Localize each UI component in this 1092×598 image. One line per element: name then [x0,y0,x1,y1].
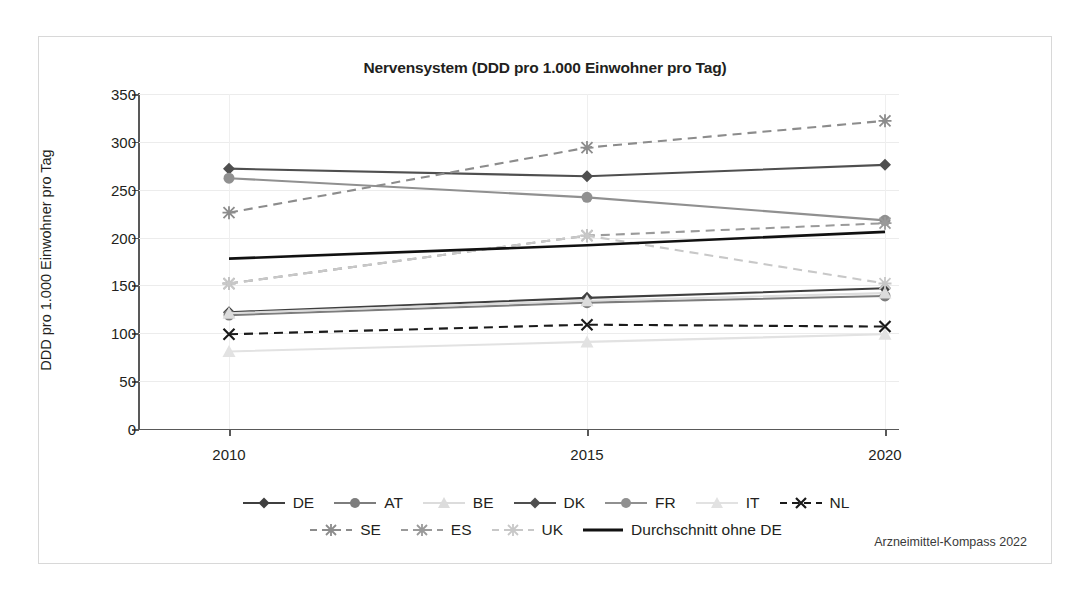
data-point-marker [581,170,593,182]
chart-figure: Nervensystem (DDD pro 1.000 Einwohner pr… [38,36,1052,564]
x-tick-label: 2015 [547,446,627,463]
legend-label: ES [451,521,472,539]
data-point-marker [581,229,594,242]
y-tick-label: 50 [76,373,136,390]
legend-item-uk[interactable]: UK [490,521,564,539]
series-layer [139,94,899,429]
legend-label: FR [655,494,676,512]
y-axis-title: DDD pro 1.000 Einwohner pro Tag [38,95,54,425]
source-note: Arzneimittel-Kompass 2022 [874,535,1027,549]
x-tick-label: 2020 [845,446,925,463]
legend-label: SE [360,521,381,539]
legend-swatch [490,521,536,539]
series-line [229,223,885,283]
data-point-marker [582,192,593,203]
series-dk [223,159,891,182]
data-point-marker [879,114,892,127]
legend-swatch [581,521,625,539]
data-point-marker [879,159,891,171]
data-point-marker [224,173,235,184]
x-tick-mark [885,429,887,436]
legend-swatch [778,494,824,512]
x-tick-label: 2010 [189,446,269,463]
series-es [223,217,892,290]
series-fr [224,173,891,226]
data-point-marker [350,498,360,508]
series-line [229,334,885,351]
series-line [229,232,885,259]
y-tick-label: 150 [76,277,136,294]
legend-label: DE [293,494,315,512]
legend-label: NL [830,494,850,512]
series-line [229,165,885,176]
legend-label: BE [473,494,494,512]
series-uk [223,229,892,290]
legend-item-fr[interactable]: FR [603,494,676,512]
legend-item-nl[interactable]: NL [778,494,850,512]
legend-swatch [241,494,287,512]
y-tick-label: 250 [76,181,136,198]
legend-item-be[interactable]: BE [421,494,494,512]
data-point-marker [223,206,236,219]
series-se [223,114,892,219]
legend-item-de[interactable]: DE [241,494,315,512]
legend-swatch [332,494,378,512]
series-line [229,121,885,213]
y-tick-label: 0 [76,421,136,438]
y-tick-label: 100 [76,325,136,342]
legend-item-es[interactable]: ES [399,521,472,539]
data-point-marker [529,497,540,508]
data-point-marker [507,524,519,536]
legend-row: DEATBEDKFRITNL [39,489,1051,516]
legend-item-se[interactable]: SE [308,521,381,539]
legend-swatch [694,494,740,512]
legend-label: Durchschnitt ohne DE [631,521,782,539]
x-tick-mark [229,429,231,436]
x-tick-mark [587,429,589,436]
data-point-marker [879,277,892,290]
y-tick-label: 300 [76,133,136,150]
legend-swatch [512,494,558,512]
series-line [229,178,885,220]
series-durchschnitt-ohne-de [229,232,885,259]
legend-label: AT [384,494,403,512]
legend-label: UK [542,521,564,539]
data-point-marker [581,141,594,154]
y-tick-label: 200 [76,229,136,246]
legend-label: IT [746,494,760,512]
legend-label: DK [564,494,586,512]
data-point-marker [621,498,631,508]
legend-item-dk[interactable]: DK [512,494,586,512]
chart-title: Nervensystem (DDD pro 1.000 Einwohner pr… [39,59,1051,77]
legend-swatch [603,494,649,512]
data-point-marker [258,497,269,508]
data-point-marker [223,277,236,290]
series-line [229,325,885,335]
legend-item-at[interactable]: AT [332,494,403,512]
data-point-marker [416,524,428,536]
legend-item-it[interactable]: IT [694,494,760,512]
plot-area: DDD pro 1.000 Einwohner pro Tag 05010015… [139,94,899,429]
legend-item-durchschnitt-ohne-de[interactable]: Durchschnitt ohne DE [581,521,782,539]
data-point-marker [325,524,337,536]
legend-swatch [308,521,354,539]
legend-swatch [399,521,445,539]
data-point-marker [879,217,892,230]
series-line [229,236,885,284]
legend-swatch [421,494,467,512]
series-line [229,288,885,312]
y-tick-label: 350 [76,86,136,103]
